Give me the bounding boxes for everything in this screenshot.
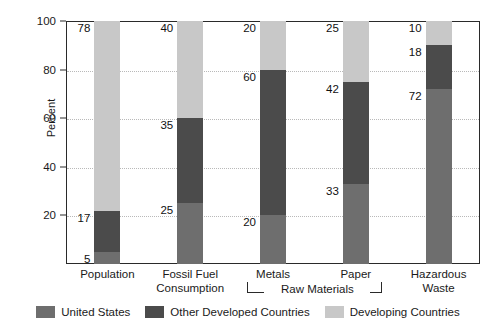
y-tick-mark (60, 118, 66, 119)
legend-label: United States (61, 306, 130, 318)
bar-segment (343, 82, 369, 184)
bar-segment (260, 215, 286, 264)
bar-segment (260, 70, 286, 216)
legend-item: Developing Countries (325, 306, 460, 318)
bar-value-label: 40 (160, 22, 173, 34)
stacked-bar-chart: Percent 20406080100 51778253540206020334… (0, 0, 496, 336)
bar-value-label: 72 (409, 90, 422, 102)
y-tick-label: 60 (22, 112, 56, 124)
x-axis-label: Hazardous Waste (384, 268, 494, 295)
raw-materials-bracket-label: Raw Materials (264, 283, 370, 295)
bar-value-label: 18 (409, 46, 422, 58)
bar-segment (177, 21, 203, 118)
y-tick-mark (60, 21, 66, 22)
legend-label: Other Developed Countries (170, 306, 309, 318)
bar-segment (260, 21, 286, 70)
chart-legend: United StatesOther Developed CountriesDe… (0, 306, 496, 318)
bar-value-label: 60 (243, 71, 256, 83)
bar-segment (426, 89, 452, 264)
bar-value-label: 78 (78, 22, 91, 34)
y-tick-label: 20 (22, 209, 56, 221)
bar-value-label: 35 (160, 119, 173, 131)
legend-item: United States (36, 306, 130, 318)
legend-swatch-icon (325, 306, 344, 318)
bar-segment (94, 252, 120, 264)
bar-segment (426, 21, 452, 45)
bar-segment (343, 184, 369, 264)
bar-segment (177, 203, 203, 264)
y-tick-label: 100 (22, 15, 56, 27)
bar-segment (343, 21, 369, 82)
legend-label: Developing Countries (350, 306, 460, 318)
bar-segment (177, 118, 203, 203)
bar-value-label: 33 (326, 185, 339, 197)
bar-hazardous-waste: 721810 (426, 21, 452, 264)
bar-segment (426, 45, 452, 89)
bar-paper: 334225 (343, 21, 369, 264)
y-tick-label: 80 (22, 64, 56, 76)
legend-swatch-icon (145, 306, 164, 318)
bar-fossil-fuel-consumption: 253540 (177, 21, 203, 264)
bar-value-label: 17 (78, 212, 91, 224)
bar-value-label: 25 (160, 204, 173, 216)
bar-value-label: 10 (409, 22, 422, 34)
bar-population: 51778 (94, 21, 120, 264)
bar-segment (94, 211, 120, 252)
bar-value-label: 5 (84, 253, 90, 265)
bar-value-label: 42 (326, 83, 339, 95)
bar-segment (94, 21, 120, 211)
y-tick-mark (60, 166, 66, 167)
bar-value-label: 20 (243, 216, 256, 228)
bar-value-label: 25 (326, 22, 339, 34)
y-tick-mark (60, 69, 66, 70)
y-tick-mark (60, 215, 66, 216)
legend-swatch-icon (36, 306, 55, 318)
legend-item: Other Developed Countries (145, 306, 309, 318)
bar-value-label: 20 (243, 22, 256, 34)
y-tick-label: 40 (22, 161, 56, 173)
bar-metals: 206020 (260, 21, 286, 264)
